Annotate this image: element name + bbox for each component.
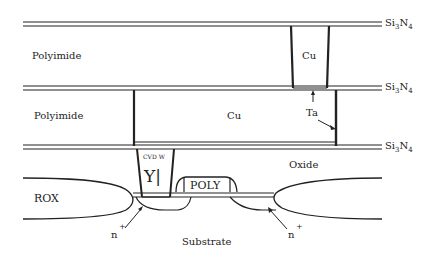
w-glyph-label: Y|: [143, 166, 161, 186]
svg-text:n: n: [288, 229, 295, 240]
svg-text:Si3N4: Si3N4: [385, 140, 413, 154]
poly-label: POLY: [190, 179, 221, 192]
n-plus-right-label: n +: [288, 222, 303, 240]
si3n4-layer-lower: [23, 145, 382, 149]
ta-label: Ta: [306, 107, 318, 118]
n-plus-regions: [136, 197, 276, 210]
surface-lines: [133, 193, 274, 197]
si3n4-label-top: Si3N4: [385, 17, 413, 31]
cu-via-label: Cu: [302, 50, 317, 61]
rox-label: ROX: [34, 192, 59, 205]
si3n4-layer-middle: [23, 86, 382, 90]
ta-arrow-diag: [318, 120, 336, 130]
svg-text:n: n: [111, 229, 118, 240]
si3n4-layer-top: [23, 22, 382, 26]
oxide-label: Oxide: [289, 159, 318, 170]
n-plus-left-label: n +: [111, 222, 126, 240]
cvd-w-label: CVD W: [143, 153, 166, 160]
substrate-label: Substrate: [182, 236, 232, 247]
rox-right: [274, 178, 382, 219]
ta-arrow-up: [311, 90, 315, 102]
svg-text:Si3N4: Si3N4: [385, 81, 413, 95]
si3n4-label-lower: Si3N4: [385, 140, 413, 154]
n-plus-right-arrow: [268, 207, 287, 229]
svg-text:+: +: [119, 222, 126, 231]
polyimide-mid-label: Polyimide: [34, 110, 83, 121]
cross-section-diagram: Polyimide Polyimide Cu Cu Ta Oxide ROX S…: [0, 0, 437, 263]
cu-line-label: Cu: [227, 110, 242, 121]
svg-text:+: +: [296, 222, 303, 231]
svg-text:Si3N4: Si3N4: [385, 17, 413, 31]
si3n4-label-middle: Si3N4: [385, 81, 413, 95]
polyimide-top-label: Polyimide: [32, 50, 81, 61]
